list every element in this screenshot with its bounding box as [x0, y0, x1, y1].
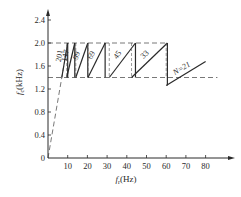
axes — [46, 9, 235, 160]
series-label: 33 — [139, 48, 151, 60]
x-tick-label: 60 — [162, 161, 171, 171]
x-axis-label: fr(Hz) — [115, 174, 136, 185]
y-tick-label: 0 — [41, 153, 45, 163]
y-tick-label: 1.2 — [34, 84, 45, 94]
series-label: 99 — [71, 50, 82, 61]
series-label: N=21 — [170, 60, 192, 78]
y-tick-label: 2.0 — [34, 38, 45, 48]
x-tick-label: 50 — [142, 161, 151, 171]
pwm-carrier-frequency-chart: 102030405060708000.40.81.21.62.02.4 2011… — [0, 0, 241, 197]
y-axis-label: fc(kHz) — [14, 69, 25, 95]
series-line-33 — [132, 43, 168, 78]
ticks: 102030405060708000.40.81.21.62.02.4 — [34, 15, 209, 171]
x-axis-arrow-icon — [228, 156, 235, 160]
x-tick-label: 20 — [83, 161, 92, 171]
x-tick-label: 80 — [201, 161, 210, 171]
y-tick-label: 1.6 — [34, 61, 45, 71]
series-label: 147 — [60, 49, 71, 63]
series-label: 45 — [111, 49, 123, 61]
reference-lines — [48, 43, 217, 158]
x-tick-label: 30 — [103, 161, 112, 171]
chart-canvas: 102030405060708000.40.81.21.62.02.4 2011… — [0, 0, 241, 197]
x-tick-label: 40 — [123, 161, 132, 171]
y-tick-label: 0.4 — [34, 130, 45, 140]
y-axis-arrow-icon — [46, 9, 50, 16]
x-tick-label: 10 — [63, 161, 72, 171]
x-tick-label: 70 — [182, 161, 191, 171]
y-tick-label: 2.4 — [34, 15, 45, 25]
y-tick-label: 0.8 — [34, 107, 45, 117]
